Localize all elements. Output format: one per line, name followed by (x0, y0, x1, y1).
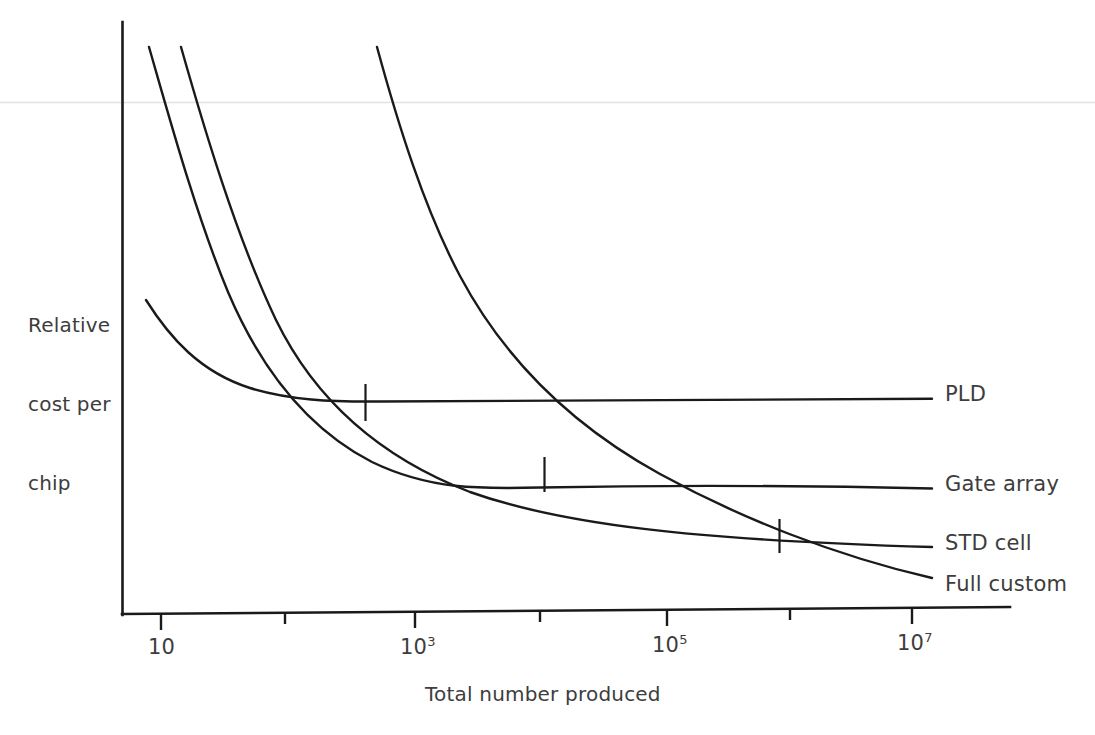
curve-label-full-custom: Full custom (945, 571, 1067, 599)
x-tick-label-10-7-mantissa: 10 (897, 631, 924, 655)
curve-label-gate-array: Gate array (945, 471, 1059, 499)
figure-root: Relative cost per chip 10 103 105 107 To… (0, 0, 1095, 735)
curve-label-std-cell: STD cell (945, 530, 1032, 558)
x-tick-label-10-3-mantissa: 10 (400, 635, 427, 659)
x-tick-label-10-1: 10 (148, 634, 175, 662)
x-tick-label-10-3-exponent: 3 (427, 634, 435, 649)
x-axis-title: Total number produced (425, 681, 661, 707)
x-tick-label-10-5-mantissa: 10 (652, 633, 679, 657)
x-tick-label-10-5: 105 (652, 632, 688, 660)
x-tick-label-10-7-exponent: 7 (924, 630, 932, 645)
x-tick-label-10-7: 107 (897, 630, 933, 658)
y-axis-title-line-3: chip (28, 470, 111, 496)
curve-gate-array (149, 47, 932, 489)
x-tick-label-10-5-exponent: 5 (679, 632, 687, 647)
y-axis-title-line-2: cost per (28, 391, 111, 417)
curve-pld (146, 300, 932, 402)
y-axis-title: Relative cost per chip (28, 259, 111, 549)
x-axis-line (122, 607, 1010, 614)
curve-label-pld: PLD (945, 381, 986, 409)
curve-full-custom (377, 47, 932, 578)
x-tick-label-10-3: 103 (400, 634, 436, 662)
chart-canvas (0, 0, 1095, 735)
x-tick-label-10-1-mantissa: 10 (148, 635, 175, 659)
y-axis-title-line-1: Relative (28, 312, 111, 338)
curve-std-cell (181, 47, 932, 547)
